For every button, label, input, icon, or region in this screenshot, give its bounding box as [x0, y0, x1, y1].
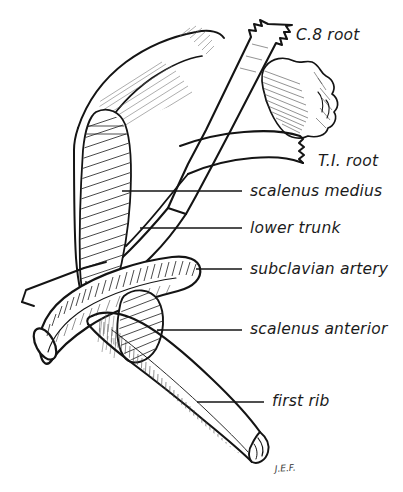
label-scalenus-anterior: scalenus anterior [250, 320, 389, 338]
label-c8-root: C.8 root [296, 26, 360, 44]
label-t1-root: T.I. root [318, 152, 379, 170]
label-subclavian-artery: subclavian artery [250, 260, 389, 278]
artist-signature: J.E.F. [272, 463, 296, 475]
illustration-canvas: C.8 root T.I. root scalenus medius lower… [0, 0, 403, 492]
anatomical-figure: C.8 root T.I. root scalenus medius lower… [0, 0, 403, 492]
label-scalenus-medius: scalenus medius [250, 182, 382, 200]
label-lower-trunk: lower trunk [250, 219, 341, 237]
label-first-rib: first rib [272, 392, 330, 410]
